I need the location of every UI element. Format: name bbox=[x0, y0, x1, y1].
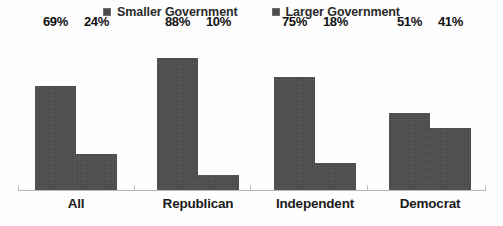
x-axis-line bbox=[18, 190, 486, 191]
bar-value-label: 10% bbox=[206, 15, 231, 28]
category-label: Democrat bbox=[359, 194, 501, 214]
chart-legend: Smaller Government Larger Government bbox=[0, 6, 503, 19]
bar-value-label: 18% bbox=[323, 15, 348, 28]
bar-value-label: 51% bbox=[397, 15, 422, 28]
axis-tick bbox=[485, 185, 486, 190]
bar[interactable]: 18% bbox=[315, 30, 356, 190]
category-axis-labels: AllRepublicanIndependentDemocrat bbox=[0, 194, 503, 218]
bar[interactable]: 51% bbox=[389, 30, 430, 190]
bar-rect bbox=[157, 58, 198, 190]
bar-value-label: 75% bbox=[282, 15, 307, 28]
bar-rect bbox=[315, 163, 356, 190]
bar[interactable]: 10% bbox=[198, 30, 239, 190]
axis-tick bbox=[134, 185, 135, 190]
bar-rect bbox=[76, 154, 117, 190]
bar-group-bars: 51%41% bbox=[389, 30, 471, 190]
bar-group-bars: 75%18% bbox=[274, 30, 356, 190]
bar-value-label: 88% bbox=[165, 15, 190, 28]
bar-group: 51%41% bbox=[389, 30, 471, 190]
grouped-bar-chart: Smaller Government Larger Government 69%… bbox=[0, 0, 503, 226]
axis-tick bbox=[18, 185, 19, 190]
axis-tick bbox=[367, 185, 368, 190]
bar-value-label: 24% bbox=[84, 15, 109, 28]
bar-rect bbox=[389, 113, 430, 190]
bar-group: 69%24% bbox=[35, 30, 117, 190]
bar-value-label: 69% bbox=[43, 15, 68, 28]
axis-tick bbox=[250, 185, 251, 190]
bar-group-bars: 88%10% bbox=[157, 30, 239, 190]
bar-value-label: 41% bbox=[438, 15, 463, 28]
bar-rect bbox=[35, 86, 76, 190]
legend-swatch-larger-government-icon bbox=[272, 8, 280, 16]
bar-rect bbox=[430, 128, 471, 190]
bar[interactable]: 24% bbox=[76, 30, 117, 190]
bar-group: 88%10% bbox=[157, 30, 239, 190]
bar[interactable]: 88% bbox=[157, 30, 198, 190]
bar-group-bars: 69%24% bbox=[35, 30, 117, 190]
bar-group: 75%18% bbox=[274, 30, 356, 190]
bar-rect bbox=[198, 175, 239, 190]
bar[interactable]: 41% bbox=[430, 30, 471, 190]
plot-area: 69%24%88%10%75%18%51%41% bbox=[0, 30, 503, 190]
bar[interactable]: 69% bbox=[35, 30, 76, 190]
bar-rect bbox=[274, 77, 315, 190]
bar[interactable]: 75% bbox=[274, 30, 315, 190]
category-label: All bbox=[5, 194, 147, 214]
